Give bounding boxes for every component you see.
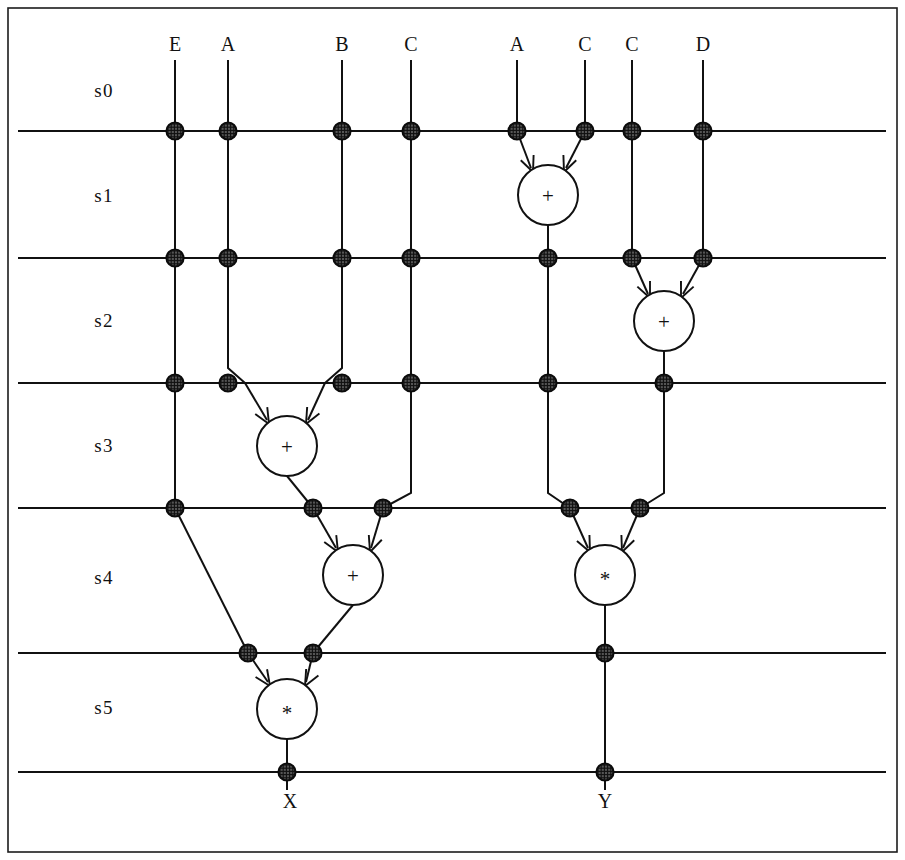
reg-e-s4[interactable] (240, 645, 257, 662)
input-c2: C (578, 33, 591, 55)
op-add-s4-glyph: + (347, 564, 359, 588)
reg-sum4-s4[interactable] (305, 645, 322, 662)
reg-b-s1[interactable] (334, 250, 351, 267)
reg-sum3-s3[interactable] (305, 500, 322, 517)
arrowhead-mul-s5-left (256, 669, 270, 686)
input-a2: A (510, 33, 525, 55)
wire-sum2-s2-s3 (640, 383, 664, 508)
reg-d-s1[interactable] (695, 250, 712, 267)
reg-e-s2[interactable] (167, 375, 184, 392)
wire-b-s1-s2 (325, 258, 342, 383)
reg-y-s5[interactable] (597, 764, 614, 781)
reg-x-s5[interactable] (279, 764, 296, 781)
figure-border (8, 8, 897, 852)
reg-c1-s1[interactable] (403, 250, 420, 267)
reg-sum2-s2[interactable] (656, 375, 673, 392)
reg-c1-s2[interactable] (403, 375, 420, 392)
reg-e-s1[interactable] (167, 250, 184, 267)
output-x: X (283, 790, 298, 812)
reg-sum1-s3[interactable] (562, 500, 579, 517)
arrowhead-add-s3-left (255, 407, 269, 424)
figure-canvas: ++++** s0s1s2s3s4s5 EABCACCD XY (0, 0, 905, 860)
stage-label-s0: s0 (94, 80, 113, 101)
output-label-layer: XY (283, 790, 612, 812)
input-c3: C (625, 33, 638, 55)
stage-label-s3: s3 (94, 435, 113, 456)
reg-a1-s1[interactable] (220, 250, 237, 267)
arrowhead-add-s3-right-barb (306, 407, 307, 424)
op-add-s3-glyph: + (281, 435, 293, 459)
scheduled-dataflow-graph: ++++** s0s1s2s3s4s5 EABCACCD XY (0, 0, 905, 860)
op-add-s4[interactable]: + (323, 545, 383, 605)
reg-a1-s0[interactable] (220, 123, 237, 140)
op-mul-s4[interactable]: * (575, 545, 635, 605)
op-add-s3[interactable]: + (257, 416, 317, 476)
stage-label-s2: s2 (94, 310, 113, 331)
reg-a2-s0[interactable] (509, 123, 526, 140)
op-add-s1-glyph: + (542, 184, 554, 208)
reg-c3-s1[interactable] (624, 250, 641, 267)
op-mul-s5[interactable]: * (257, 679, 317, 739)
stage-label-layer: s0s1s2s3s4s5 (94, 80, 113, 718)
wire-layer (175, 60, 703, 790)
input-a1: A (221, 33, 236, 55)
input-c1: C (404, 33, 417, 55)
reg-d-s0[interactable] (695, 123, 712, 140)
input-e: E (169, 33, 181, 55)
stage-label-s5: s5 (94, 697, 113, 718)
op-add-s2[interactable]: + (634, 291, 694, 351)
reg-e-s3[interactable] (167, 500, 184, 517)
reg-sum2-s3[interactable] (632, 500, 649, 517)
wire-c1-s2-s3 (383, 383, 411, 508)
arrowhead-add-s2-right (681, 281, 694, 298)
input-b: B (335, 33, 348, 55)
reg-b-s0[interactable] (334, 123, 351, 140)
reg-c3-s0[interactable] (624, 123, 641, 140)
output-y: Y (598, 790, 612, 812)
wire-a1-s1-s2 (228, 258, 245, 383)
op-add-s1[interactable]: + (518, 165, 578, 225)
reg-sum1-s1[interactable] (540, 250, 557, 267)
wire-sum1-s2-s3 (548, 383, 570, 508)
reg-c1-s0[interactable] (403, 123, 420, 140)
stage-boundary-lines (18, 131, 886, 772)
arrowhead-layer (255, 155, 693, 686)
wire-e-s3-s4 (175, 508, 248, 653)
reg-c1-s3[interactable] (375, 500, 392, 517)
register-layer (167, 123, 712, 781)
wire-b-to-add-s3 (308, 383, 325, 420)
reg-sum1-s2[interactable] (540, 375, 557, 392)
op-add-s2-glyph: + (658, 310, 670, 334)
arrowhead-mul-s5-right-barb (305, 669, 306, 686)
reg-c2-s0[interactable] (577, 123, 594, 140)
op-mul-s5-glyph: * (282, 701, 293, 725)
reg-e-s0[interactable] (167, 123, 184, 140)
stage-label-s4: s4 (94, 567, 113, 588)
stage-label-s1: s1 (94, 185, 113, 206)
reg-prod-s4[interactable] (597, 645, 614, 662)
op-mul-s4-glyph: * (600, 567, 611, 591)
reg-a1-s2[interactable] (220, 375, 237, 392)
arrowhead-add-s4-right (369, 535, 382, 552)
input-d: D (696, 33, 710, 55)
input-label-layer: EABCACCD (169, 33, 710, 55)
reg-b-s2[interactable] (334, 375, 351, 392)
